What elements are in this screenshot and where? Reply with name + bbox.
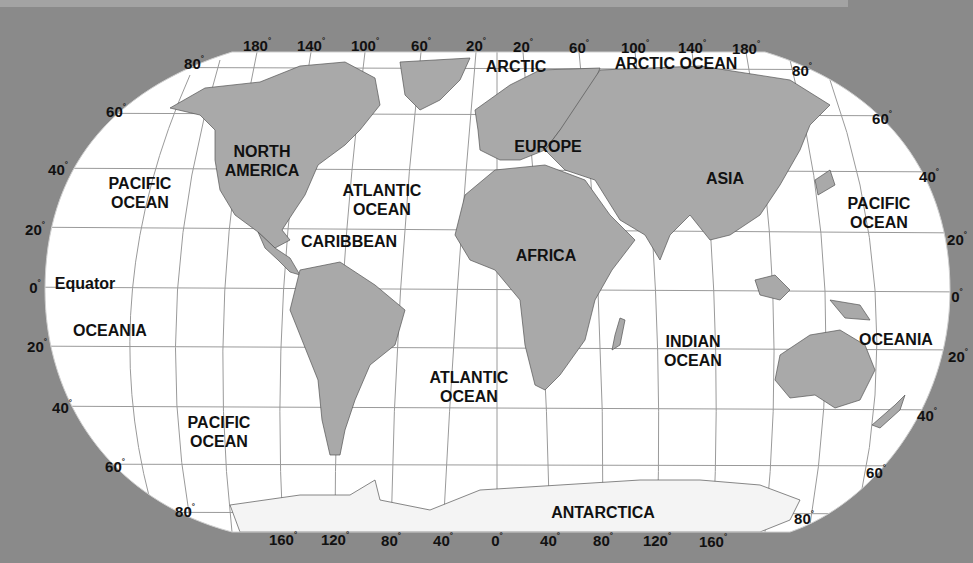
latitude-left-label: 20° xyxy=(27,338,47,355)
degree-value: 60 xyxy=(105,458,122,475)
degree-value: 20 xyxy=(25,221,42,238)
latitude-left-label: 80° xyxy=(175,503,195,520)
region-label-pacific-ocean-ne: PACIFICOCEAN xyxy=(848,194,911,232)
degree-symbol: ° xyxy=(123,102,126,111)
degree-value: 20 xyxy=(466,37,483,54)
latitude-left-label: 40° xyxy=(48,161,68,178)
degree-value: 80 xyxy=(593,532,610,549)
latitude-left-label: 60° xyxy=(105,458,125,475)
degree-symbol: ° xyxy=(965,347,968,356)
longitude-top-label: 100° xyxy=(351,37,379,54)
degree-value: 80 xyxy=(381,532,398,549)
degree-value: 160 xyxy=(699,533,724,550)
degree-value: 40 xyxy=(48,161,65,178)
degree-value: 180 xyxy=(732,40,757,57)
region-label-oceania-e: OCEANIA xyxy=(859,330,933,349)
degree-symbol: ° xyxy=(42,220,45,229)
latitude-right-label: 60° xyxy=(872,110,892,127)
region-label-africa: AFRICA xyxy=(516,246,576,265)
degree-value: 180 xyxy=(243,37,268,54)
degree-symbol: ° xyxy=(809,61,812,70)
region-label-atlantic-ocean-s: ATLANTICOCEAN xyxy=(430,368,509,406)
longitude-top-label: 180° xyxy=(732,40,760,57)
latitude-left-label: 0° xyxy=(29,279,41,296)
degree-value: 20 xyxy=(948,348,965,365)
longitude-top-label: 20° xyxy=(466,37,486,54)
degree-value: 80 xyxy=(794,510,811,527)
degree-symbol: ° xyxy=(586,38,589,47)
degree-symbol: ° xyxy=(201,54,204,63)
latitude-right-label: 40° xyxy=(917,407,937,424)
region-label-arctic: ARCTIC xyxy=(486,57,546,76)
region-label-antarctica: ANTARCTICA xyxy=(551,503,655,522)
degree-symbol: ° xyxy=(610,531,613,540)
degree-symbol: ° xyxy=(322,36,325,45)
degree-symbol: ° xyxy=(122,457,125,466)
degree-value: 20 xyxy=(27,338,44,355)
region-label-pacific-ocean-nw: PACIFICOCEAN xyxy=(109,174,172,212)
degree-value: 80 xyxy=(792,62,809,79)
latitude-right-label: 80° xyxy=(794,510,814,527)
degree-value: 160 xyxy=(269,531,294,548)
latitude-left-label: 40° xyxy=(52,399,72,416)
degree-symbol: ° xyxy=(530,37,533,46)
degree-value: 40 xyxy=(52,399,69,416)
longitude-bottom-label: 80° xyxy=(593,532,613,549)
degree-symbol: ° xyxy=(936,167,939,176)
degree-symbol: ° xyxy=(557,531,560,540)
longitude-bottom-label: 0° xyxy=(491,532,503,549)
degree-value: 120 xyxy=(643,532,668,549)
longitude-top-label: 140° xyxy=(678,39,706,56)
degree-symbol: ° xyxy=(811,509,814,518)
degree-symbol: ° xyxy=(398,531,401,540)
degree-value: 20 xyxy=(513,38,530,55)
degree-symbol: ° xyxy=(69,398,72,407)
longitude-top-label: 180° xyxy=(243,37,271,54)
latitude-right-label: 80° xyxy=(792,62,812,79)
degree-symbol: ° xyxy=(883,463,886,472)
degree-symbol: ° xyxy=(428,36,431,45)
degree-value: 80 xyxy=(175,503,192,520)
degree-symbol: ° xyxy=(724,532,727,541)
degree-value: 40 xyxy=(919,168,936,185)
region-label-indian-ocean: INDIANOCEAN xyxy=(664,332,722,370)
longitude-bottom-label: 120° xyxy=(321,531,349,548)
longitude-bottom-label: 120° xyxy=(643,532,671,549)
degree-value: 60 xyxy=(866,464,883,481)
degree-symbol: ° xyxy=(934,406,937,415)
degree-value: 120 xyxy=(321,531,346,548)
longitude-top-label: 100° xyxy=(621,39,649,56)
degree-symbol: ° xyxy=(294,530,297,539)
degree-symbol: ° xyxy=(757,39,760,48)
degree-value: 40 xyxy=(433,532,450,549)
degree-symbol: ° xyxy=(65,160,68,169)
region-label-equator: Equator xyxy=(55,274,115,293)
latitude-left-label: 20° xyxy=(25,221,45,238)
degree-value: 40 xyxy=(540,532,557,549)
degree-symbol: ° xyxy=(964,230,967,239)
degree-symbol: ° xyxy=(38,278,41,287)
longitude-bottom-label: 40° xyxy=(540,532,560,549)
longitude-bottom-label: 40° xyxy=(433,532,453,549)
degree-symbol: ° xyxy=(960,287,963,296)
degree-value: 60 xyxy=(106,103,123,120)
latitude-left-label: 80° xyxy=(184,55,204,72)
degree-value: 100 xyxy=(621,39,646,56)
latitude-left-label: 60° xyxy=(106,103,126,120)
region-label-arctic-ocean: ARCTIC OCEAN xyxy=(615,54,738,73)
latitude-right-label: 40° xyxy=(919,168,939,185)
region-label-pacific-ocean-s: PACIFICOCEAN xyxy=(188,413,251,451)
world-map xyxy=(0,0,973,563)
latitude-right-label: 20° xyxy=(947,231,967,248)
region-label-atlantic-ocean-n: ATLANTICOCEAN xyxy=(343,181,422,219)
degree-symbol: ° xyxy=(44,337,47,346)
degree-symbol: ° xyxy=(192,502,195,511)
degree-symbol: ° xyxy=(483,36,486,45)
degree-value: 100 xyxy=(351,37,376,54)
region-label-europe: EUROPE xyxy=(514,137,582,156)
latitude-right-label: 60° xyxy=(866,464,886,481)
degree-value: 80 xyxy=(184,55,201,72)
longitude-bottom-label: 160° xyxy=(699,533,727,550)
longitude-top-label: 140° xyxy=(297,37,325,54)
degree-value: 140 xyxy=(678,39,703,56)
